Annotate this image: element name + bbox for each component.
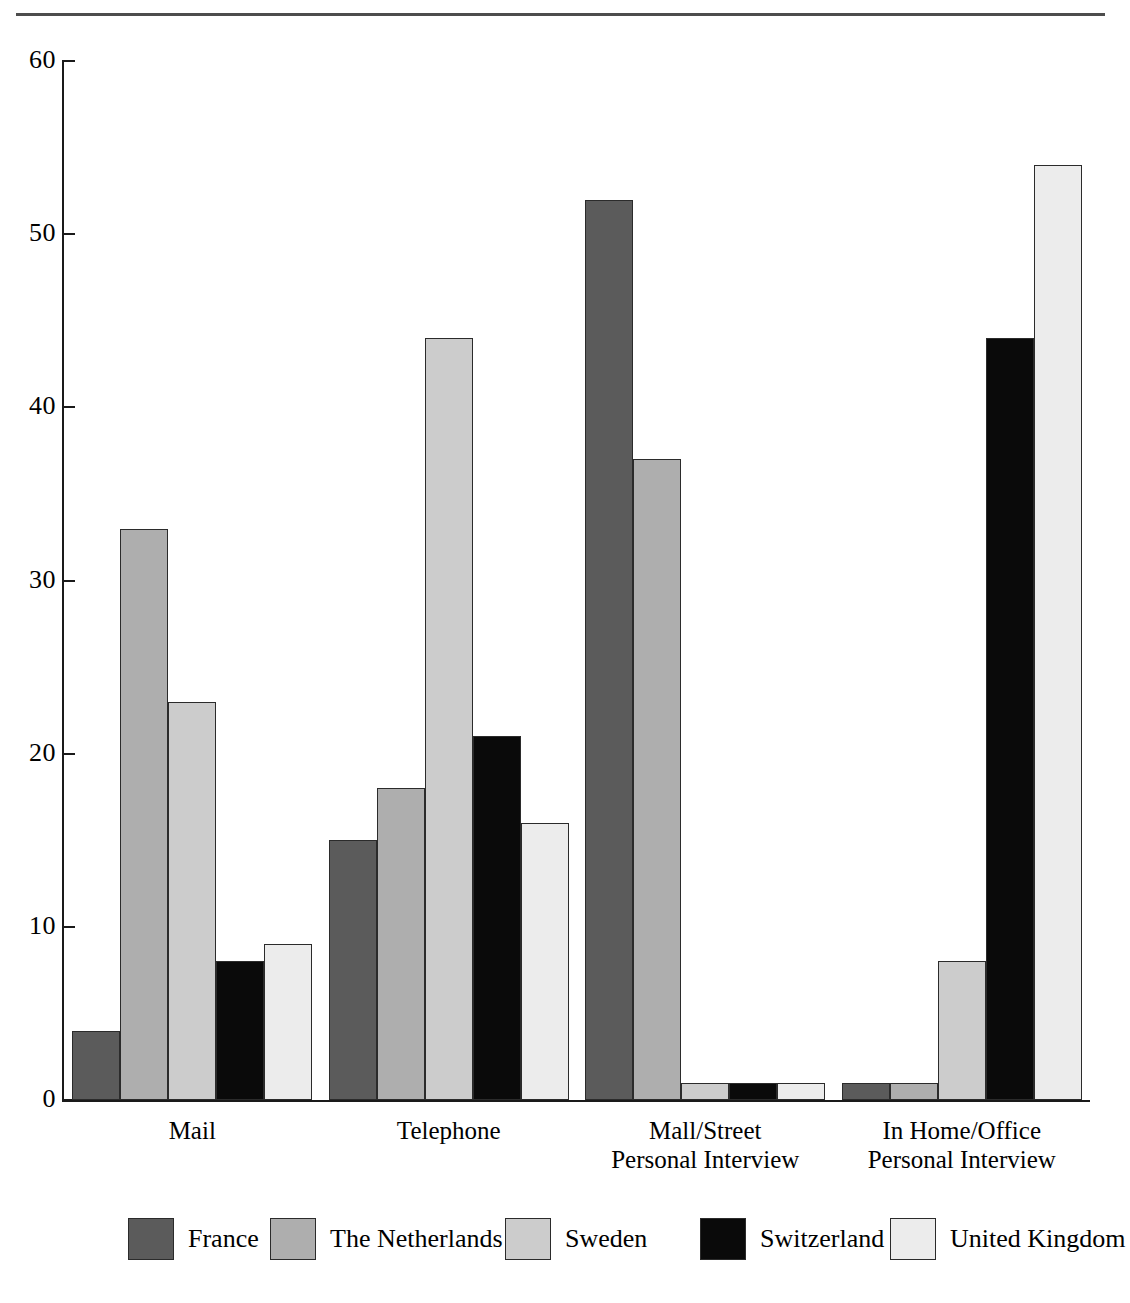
bar	[890, 1083, 938, 1100]
bar	[168, 702, 216, 1100]
bar	[473, 736, 521, 1100]
bars-layer	[0, 40, 1119, 1102]
bar	[729, 1083, 777, 1100]
chart-legend: FranceThe NetherlandsSwedenSwitzerlandUn…	[0, 1218, 1119, 1278]
bar	[264, 944, 312, 1100]
legend-label: Switzerland	[760, 1224, 884, 1254]
bar	[777, 1083, 825, 1100]
legend-swatch	[890, 1218, 936, 1260]
legend-item: France	[128, 1218, 259, 1260]
bar	[633, 459, 681, 1100]
bar	[521, 823, 569, 1100]
legend-label: Sweden	[565, 1224, 647, 1254]
legend-item: United Kingdom	[890, 1218, 1126, 1260]
bar	[72, 1031, 120, 1100]
bar	[216, 961, 264, 1100]
legend-swatch	[270, 1218, 316, 1260]
bar	[585, 200, 633, 1100]
bar	[120, 529, 168, 1100]
legend-label: The Netherlands	[330, 1224, 503, 1254]
bar	[329, 840, 377, 1100]
legend-swatch	[128, 1218, 174, 1260]
bar	[1034, 165, 1082, 1100]
bar	[986, 338, 1034, 1100]
header-rule	[16, 13, 1105, 16]
legend-label: United Kingdom	[950, 1224, 1126, 1254]
legend-item: Switzerland	[700, 1218, 884, 1260]
bar	[425, 338, 473, 1100]
legend-swatch	[700, 1218, 746, 1260]
bar	[681, 1083, 729, 1100]
legend-swatch	[505, 1218, 551, 1260]
legend-label: France	[188, 1224, 259, 1254]
bar	[377, 788, 425, 1100]
legend-item: The Netherlands	[270, 1218, 503, 1260]
plot-area: 0102030405060 MailTelephoneMall/Street P…	[0, 40, 1119, 1105]
bar	[842, 1083, 890, 1100]
x-axis-label: In Home/Office Personal Interview	[782, 1116, 1130, 1174]
legend-item: Sweden	[505, 1218, 647, 1260]
bar	[938, 961, 986, 1100]
